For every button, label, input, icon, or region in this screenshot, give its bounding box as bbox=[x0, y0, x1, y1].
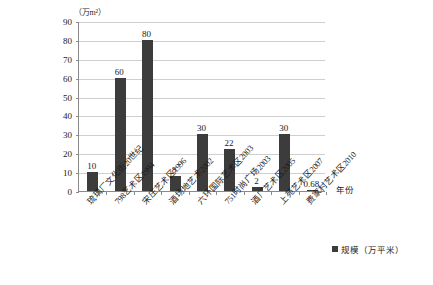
bar-chart-figure: （万m²） 0102030405060708090 10608083022230… bbox=[0, 0, 433, 285]
y-axis-unit-caption: （万m²） bbox=[74, 6, 106, 17]
x-tick-mark bbox=[299, 192, 300, 195]
x-tick-mark bbox=[244, 192, 245, 195]
bar-value-label: 60 bbox=[115, 67, 124, 77]
y-tick-label: 50 bbox=[50, 93, 72, 103]
x-axis-title: 年份 bbox=[336, 183, 354, 195]
y-tick-mark bbox=[76, 192, 79, 193]
y-tick-label: 20 bbox=[50, 149, 72, 159]
y-tick-label: 70 bbox=[50, 55, 72, 65]
legend-color-swatch bbox=[332, 246, 338, 252]
x-tick-mark bbox=[271, 192, 272, 195]
y-tick-mark bbox=[76, 173, 79, 174]
y-tick-mark bbox=[76, 41, 79, 42]
y-tick-mark bbox=[76, 154, 79, 155]
x-tick-mark bbox=[106, 192, 107, 195]
x-tick-mark bbox=[216, 192, 217, 195]
bar-value-label: 80 bbox=[142, 29, 151, 39]
x-tick-mark bbox=[189, 192, 190, 195]
y-tick-mark bbox=[76, 60, 79, 61]
y-tick-label: 40 bbox=[50, 111, 72, 121]
y-tick-label: 80 bbox=[50, 36, 72, 46]
x-tick-mark bbox=[326, 192, 327, 195]
y-tick-mark bbox=[76, 98, 79, 99]
y-tick-label: 30 bbox=[50, 130, 72, 140]
x-tick-mark bbox=[134, 192, 135, 195]
y-tick-label: 10 bbox=[50, 168, 72, 178]
chart-legend: 规模（万平米） bbox=[332, 243, 404, 255]
y-tick-label: 0 bbox=[50, 187, 72, 197]
y-tick-label: 60 bbox=[50, 74, 72, 84]
y-tick-mark bbox=[76, 22, 79, 23]
y-tick-mark bbox=[76, 116, 79, 117]
legend-label: 规模（万平米） bbox=[341, 243, 404, 255]
gridline bbox=[79, 22, 325, 23]
gridline bbox=[79, 60, 325, 61]
bar-value-label: 10 bbox=[87, 161, 96, 171]
bar-value-label: 22 bbox=[224, 138, 233, 148]
gridline bbox=[79, 41, 325, 42]
y-tick-label: 90 bbox=[50, 17, 72, 27]
bar-value-label: 30 bbox=[197, 123, 206, 133]
y-tick-mark bbox=[76, 79, 79, 80]
x-tick-mark bbox=[161, 192, 162, 195]
y-tick-mark bbox=[76, 135, 79, 136]
bar-value-label: 30 bbox=[279, 123, 288, 133]
